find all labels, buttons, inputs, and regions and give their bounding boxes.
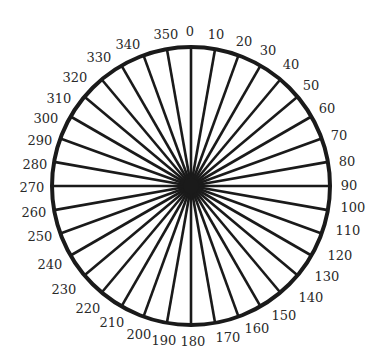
- degree-wheel-diagram: 0102030405060708090100110120130140150160…: [0, 0, 378, 362]
- degree-label-130: 130: [315, 269, 340, 284]
- degree-label-10: 10: [208, 27, 225, 42]
- degree-label-320: 320: [63, 70, 88, 85]
- degree-label-270: 270: [20, 180, 45, 195]
- degree-label-330: 330: [87, 50, 112, 65]
- degree-label-290: 290: [28, 133, 53, 148]
- degree-label-30: 30: [260, 43, 277, 58]
- degree-label-310: 310: [47, 91, 72, 106]
- degree-label-120: 120: [328, 248, 353, 263]
- degree-label-230: 230: [52, 282, 77, 297]
- center-hub: [183, 178, 199, 194]
- degree-label-20: 20: [236, 34, 253, 49]
- degree-label-260: 260: [22, 205, 47, 220]
- degree-label-60: 60: [319, 101, 336, 116]
- degree-label-110: 110: [336, 223, 361, 238]
- degree-label-140: 140: [299, 290, 324, 305]
- degree-label-180: 180: [181, 334, 206, 349]
- degree-label-90: 90: [341, 178, 358, 193]
- degree-label-300: 300: [34, 111, 59, 126]
- degree-label-70: 70: [331, 128, 348, 143]
- degree-label-340: 340: [116, 37, 141, 52]
- degree-label-250: 250: [28, 229, 53, 244]
- degree-label-80: 80: [339, 154, 356, 169]
- degree-label-40: 40: [283, 57, 300, 72]
- degree-label-350: 350: [154, 27, 179, 42]
- degree-label-170: 170: [216, 330, 241, 345]
- degree-label-190: 190: [152, 333, 177, 348]
- degree-label-210: 210: [100, 315, 125, 330]
- degree-label-200: 200: [127, 327, 152, 342]
- degree-label-100: 100: [341, 200, 366, 215]
- degree-label-240: 240: [38, 257, 63, 272]
- degree-label-150: 150: [272, 308, 297, 323]
- degree-label-50: 50: [303, 78, 320, 93]
- degree-wheel-svg: 0102030405060708090100110120130140150160…: [0, 0, 378, 362]
- degree-label-160: 160: [245, 321, 270, 336]
- degree-label-280: 280: [23, 157, 48, 172]
- degree-label-0: 0: [186, 24, 194, 39]
- degree-label-220: 220: [76, 301, 101, 316]
